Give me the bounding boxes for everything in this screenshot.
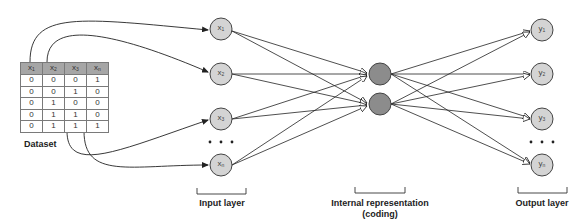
input-to-coding-edges: [232, 31, 367, 165]
autoencoder-diagram: x1 x2 x3 xn y1 y2 y3 yn x1 x2 x3 xn 0 0 …: [0, 0, 584, 222]
coding-node-2: [369, 93, 391, 115]
output-bracket: [518, 187, 567, 193]
coding-layer-label: Internal representation: [330, 198, 430, 208]
output-layer-label: Output layer: [510, 198, 574, 208]
table-row: 0 1 1 0: [21, 109, 109, 121]
coding-layer-sublabel: (coding): [330, 209, 430, 219]
output-ellipsis: [530, 141, 555, 144]
table-cell: 0: [65, 98, 87, 110]
table-cell: 1: [43, 98, 65, 110]
table-cell: 0: [43, 86, 65, 98]
coding-to-output-edges: [391, 31, 530, 164]
node-label-xn: xn: [213, 159, 229, 168]
table-cell: 0: [43, 75, 65, 87]
input-bracket: [197, 188, 246, 194]
input-ellipsis: [209, 141, 234, 144]
node-label-yn: yn: [534, 159, 550, 168]
table-cell: 0: [21, 109, 43, 121]
node-label-y3: y3: [534, 113, 550, 122]
column-header-x2: x2: [43, 63, 65, 75]
node-label-x2: x2: [213, 68, 229, 77]
table-cell: 1: [87, 75, 109, 87]
dataset-table: x1 x2 x3 xn 0 0 0 1 0 0 1 0 0 1 0: [20, 62, 109, 133]
dataset-header-row: x1 x2 x3 xn: [21, 63, 109, 75]
table-row: 0 0 0 1: [21, 75, 109, 87]
table-cell: 1: [87, 121, 109, 133]
table-cell: 0: [21, 75, 43, 87]
table-cell: 1: [65, 121, 87, 133]
table-cell: 0: [21, 121, 43, 133]
table-row: 0 1 1 1: [21, 121, 109, 133]
table-cell: 0: [87, 109, 109, 121]
output-layer-nodes: [531, 19, 553, 176]
input-layer-nodes: [210, 18, 232, 176]
column-header-x1: x1: [21, 63, 43, 75]
coding-bracket: [355, 187, 405, 193]
table-cell: 1: [43, 109, 65, 121]
table-cell: 1: [65, 86, 87, 98]
table-row: 0 0 1 0: [21, 86, 109, 98]
coding-layer-nodes: [369, 63, 391, 115]
node-label-x1: x1: [213, 23, 229, 32]
node-label-y1: y1: [534, 24, 550, 33]
table-row: 0 1 0 0: [21, 98, 109, 110]
table-cell: 0: [65, 75, 87, 87]
node-label-x3: x3: [213, 113, 229, 122]
table-cell: 0: [87, 98, 109, 110]
table-cell: 0: [21, 98, 43, 110]
table-cell: 0: [87, 86, 109, 98]
node-label-y2: y2: [534, 68, 550, 77]
column-header-x3: x3: [65, 63, 87, 75]
table-cell: 1: [43, 121, 65, 133]
dataset-label: Dataset: [24, 139, 57, 149]
table-cell: 1: [65, 109, 87, 121]
coding-node-1: [369, 63, 391, 85]
column-header-xn: xn: [87, 63, 109, 75]
table-cell: 0: [21, 86, 43, 98]
input-layer-label: Input layer: [191, 198, 253, 208]
layer-brackets: [197, 187, 567, 194]
